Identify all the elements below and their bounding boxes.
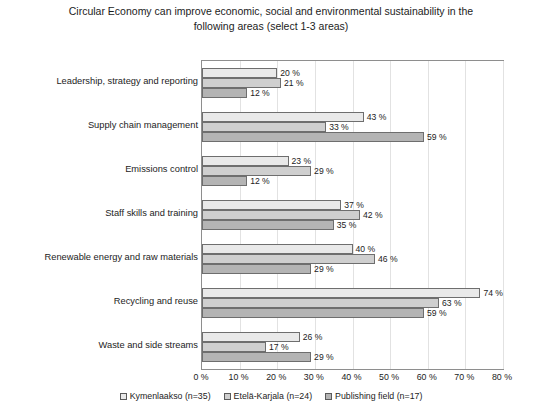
x-axis-tick-label: 20 %	[266, 373, 286, 382]
table-row: 46 %	[202, 254, 503, 264]
legend-swatch-icon	[120, 393, 127, 400]
bar-value-label: 33 %	[329, 123, 349, 132]
legend-label: Etelä-Karjala (n=24)	[234, 392, 312, 401]
x-axis-tick-label: 30 %	[304, 373, 324, 382]
bar-value-label: 12 %	[250, 89, 270, 98]
category-label: Waste and side streams	[0, 341, 198, 350]
legend-swatch-icon	[325, 393, 332, 400]
x-axis-tick-label: 60 %	[417, 373, 437, 382]
bar-rows: 20 %21 %12 %43 %33 %59 %23 %29 %12 %37 %…	[202, 61, 503, 369]
bar-value-label: 74 %	[483, 289, 503, 298]
table-row: 29 %	[202, 352, 503, 362]
chart-legend: Kymenlaakso (n=35)Etelä-Karjala (n=24)Pu…	[0, 392, 542, 401]
x-axis: 0 %10 %20 %30 %40 %50 %60 %70 %80 %	[201, 373, 504, 387]
x-axis-tick-label: 50 %	[379, 373, 399, 382]
x-axis-tick-label: 10 %	[229, 373, 249, 382]
bar-value-label: 43 %	[367, 113, 387, 122]
bar-value-label: 63 %	[442, 299, 462, 308]
legend-item[interactable]: Publishing field (n=17)	[325, 392, 422, 401]
bar[interactable]	[202, 210, 360, 220]
bar[interactable]	[202, 200, 341, 210]
table-row: 17 %	[202, 342, 503, 352]
bar[interactable]	[202, 132, 424, 142]
bar-value-label: 59 %	[427, 309, 447, 318]
table-row: 59 %	[202, 132, 503, 142]
category-label: Emissions control	[0, 165, 198, 174]
bar-value-label: 35 %	[337, 221, 357, 230]
bar-value-label: 12 %	[250, 177, 270, 186]
bar-value-label: 26 %	[303, 333, 323, 342]
bar[interactable]	[202, 254, 375, 264]
bar[interactable]	[202, 176, 247, 186]
bar-value-label: 17 %	[269, 343, 289, 352]
bar[interactable]	[202, 88, 247, 98]
bar[interactable]	[202, 68, 277, 78]
bar[interactable]	[202, 264, 311, 274]
category-label: Staff skills and training	[0, 209, 198, 218]
chart-container: Circular Economy can improve economic, s…	[0, 0, 542, 408]
bar-value-label: 23 %	[292, 157, 312, 166]
table-row: 59 %	[202, 308, 503, 318]
table-row: 35 %	[202, 220, 503, 230]
bar[interactable]	[202, 342, 266, 352]
bar[interactable]	[202, 332, 300, 342]
bar-value-label: 40 %	[356, 245, 376, 254]
category-label: Supply chain management	[0, 121, 198, 130]
bar-value-label: 37 %	[344, 201, 364, 210]
gridline	[503, 61, 504, 369]
legend-label: Kymenlaakso (n=35)	[130, 392, 211, 401]
bar-value-label: 42 %	[363, 211, 383, 220]
bar[interactable]	[202, 112, 364, 122]
table-row: 29 %	[202, 166, 503, 176]
table-row: 43 %	[202, 112, 503, 122]
x-axis-tick-label: 40 %	[341, 373, 361, 382]
table-row: 26 %	[202, 332, 503, 342]
bar[interactable]	[202, 78, 281, 88]
table-row: 63 %	[202, 298, 503, 308]
bar[interactable]	[202, 156, 289, 166]
table-row: 12 %	[202, 88, 503, 98]
bar-value-label: 29 %	[314, 265, 334, 274]
category-label: Recycling and reuse	[0, 297, 198, 306]
legend-item[interactable]: Kymenlaakso (n=35)	[120, 392, 211, 401]
table-row: 29 %	[202, 264, 503, 274]
bar-value-label: 46 %	[378, 255, 398, 264]
plot-area: 20 %21 %12 %43 %33 %59 %23 %29 %12 %37 %…	[201, 60, 504, 370]
bar[interactable]	[202, 166, 311, 176]
table-row: 40 %	[202, 244, 503, 254]
bar-value-label: 21 %	[284, 79, 304, 88]
table-row: 74 %	[202, 288, 503, 298]
legend-item[interactable]: Etelä-Karjala (n=24)	[224, 392, 312, 401]
category-label: Leadership, strategy and reporting	[0, 77, 198, 86]
bar-value-label: 20 %	[280, 69, 300, 78]
bar[interactable]	[202, 288, 480, 298]
bar-value-label: 29 %	[314, 353, 334, 362]
x-axis-tick-label: 80 %	[492, 373, 512, 382]
bar[interactable]	[202, 352, 311, 362]
table-row: 37 %	[202, 200, 503, 210]
bar[interactable]	[202, 244, 353, 254]
bar-value-label: 29 %	[314, 167, 334, 176]
table-row: 21 %	[202, 78, 503, 88]
bar-value-label: 59 %	[427, 133, 447, 142]
x-axis-tick-label: 70 %	[454, 373, 474, 382]
table-row: 20 %	[202, 68, 503, 78]
table-row: 23 %	[202, 156, 503, 166]
x-axis-tick-label: 0 %	[193, 373, 208, 382]
category-axis-labels: Leadership, strategy and reportingSupply…	[0, 60, 198, 370]
bar[interactable]	[202, 220, 334, 230]
legend-swatch-icon	[224, 393, 231, 400]
bar[interactable]	[202, 122, 326, 132]
chart-title: Circular Economy can improve economic, s…	[60, 4, 482, 33]
table-row: 12 %	[202, 176, 503, 186]
legend-label: Publishing field (n=17)	[335, 392, 422, 401]
bar[interactable]	[202, 298, 439, 308]
table-row: 42 %	[202, 210, 503, 220]
category-label: Renewable energy and raw materials	[0, 253, 198, 262]
table-row: 33 %	[202, 122, 503, 132]
bar[interactable]	[202, 308, 424, 318]
